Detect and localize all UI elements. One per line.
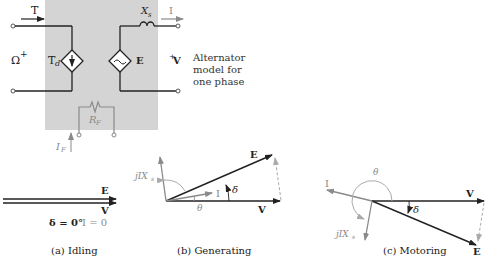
caption-generating: (b) Generating bbox=[177, 245, 251, 256]
delta-zero-label: δ = 0° bbox=[49, 217, 83, 228]
emf-label: E bbox=[136, 55, 144, 66]
alternator-circuit: T Ω + T d E X s I + V R F I F bbox=[11, 0, 183, 154]
i-phasor bbox=[166, 193, 212, 201]
svg-text:δ: δ bbox=[413, 204, 419, 215]
alternator-diagram: T Ω + T d E X s I + V R F I F E V δ = 0°… bbox=[0, 0, 489, 265]
jix-dashed-phasor bbox=[478, 203, 484, 241]
svg-text:s: s bbox=[151, 175, 154, 182]
svg-text:I: I bbox=[216, 188, 220, 199]
svg-text:jIX: jIX bbox=[334, 229, 349, 239]
jix-dashed-phasor bbox=[275, 158, 281, 200]
svg-text:V: V bbox=[465, 188, 474, 199]
svg-text:E: E bbox=[101, 185, 109, 196]
svg-text:V: V bbox=[100, 205, 109, 216]
svg-text:θ: θ bbox=[373, 167, 379, 177]
caption-idling: (a) Idling bbox=[51, 245, 98, 256]
svg-text:E: E bbox=[473, 246, 481, 257]
speed-label: Ω bbox=[11, 54, 20, 67]
svg-text:F: F bbox=[60, 146, 67, 154]
phasor-generating: E V I jIX s δ θ bbox=[133, 149, 281, 215]
caption-motoring: (c) Motoring bbox=[383, 245, 447, 256]
svg-text:s: s bbox=[352, 233, 355, 240]
svg-text:d: d bbox=[55, 59, 60, 68]
current-label: I bbox=[169, 5, 173, 16]
svg-text:V: V bbox=[257, 204, 266, 215]
svg-text:θ: θ bbox=[197, 203, 203, 213]
side-note: Alternator model for one phase bbox=[193, 52, 245, 88]
phasor-idling: E V δ = 0° I = 0 bbox=[3, 185, 116, 228]
svg-text:jIX: jIX bbox=[133, 171, 148, 181]
current-zero-label: I = 0 bbox=[82, 217, 107, 228]
svg-text:E: E bbox=[250, 149, 258, 160]
voltage-label: V bbox=[172, 55, 181, 66]
phasor-motoring: V E I jIX s δ θ bbox=[325, 167, 484, 257]
svg-text:+: + bbox=[20, 49, 28, 59]
svg-text:δ: δ bbox=[232, 184, 238, 195]
jix-phasor bbox=[160, 157, 166, 201]
jix-phasor bbox=[365, 201, 372, 240]
svg-text:s: s bbox=[148, 11, 152, 19]
torque-label: T bbox=[31, 4, 39, 17]
svg-text:I: I bbox=[325, 178, 329, 189]
e-phasor bbox=[372, 201, 476, 245]
i-phasor bbox=[327, 190, 372, 201]
